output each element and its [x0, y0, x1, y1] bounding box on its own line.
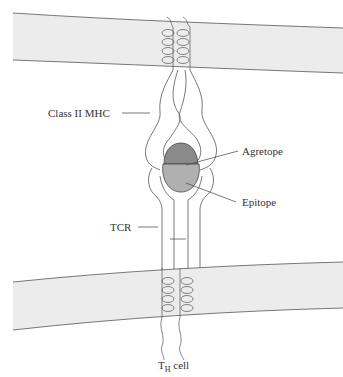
bottom-membrane — [13, 262, 343, 330]
top-membrane — [13, 13, 343, 73]
th-cell-suffix: cell — [171, 359, 190, 371]
class-ii-mhc-label: Class II MHC — [48, 107, 110, 119]
agretope-label: Agretope — [242, 145, 283, 157]
th-cell-label: TH cell — [158, 359, 189, 374]
epitope-region — [163, 164, 200, 192]
agretope-region — [164, 143, 198, 164]
tcr-label: TCR — [110, 221, 132, 233]
epitope-label: Epitope — [242, 196, 276, 208]
mhc-tcr-diagram: Class II MHC Agretope Epitope TCR TH cel… — [0, 0, 343, 377]
